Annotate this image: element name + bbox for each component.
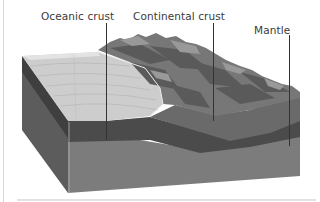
leader-line-mantle xyxy=(289,35,290,146)
leader-line-continental-crust xyxy=(213,23,214,121)
leader-line-oceanic-crust xyxy=(106,23,107,140)
label-oceanic-crust: Oceanic crust xyxy=(41,10,114,22)
label-mantle: Mantle xyxy=(254,24,290,36)
label-continental-crust: Continental crust xyxy=(133,10,225,22)
